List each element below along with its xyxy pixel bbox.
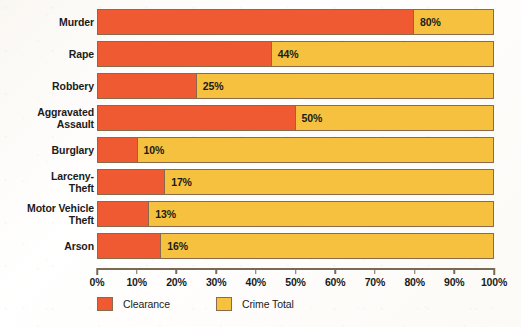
legend-swatch-icon [97, 297, 113, 311]
bar-crime-total: 80% [97, 9, 494, 35]
x-axis-tick [374, 268, 376, 274]
x-axis-tick-label: 100% [481, 276, 507, 288]
bar-value-label: 16% [167, 240, 188, 252]
chart-row: Larceny- Theft17% [0, 169, 521, 195]
bar-clearance [98, 202, 149, 226]
bar-value-label: 17% [171, 176, 192, 188]
x-axis-tick [334, 268, 336, 274]
category-label: Larceny- Theft [0, 170, 94, 194]
legend-label: Clearance [123, 298, 170, 310]
x-axis-tick-label: 80% [404, 276, 424, 288]
x-axis-tick [414, 268, 416, 274]
bar-clearance [98, 10, 414, 34]
category-label: Burglary [0, 144, 94, 156]
chart-row: Rape44% [0, 41, 521, 67]
legend-label: Crime Total [242, 298, 294, 310]
x-axis-tick [176, 268, 178, 274]
category-label: Murder [0, 16, 94, 28]
x-axis-tick [295, 268, 297, 274]
chart-row: Aggravated Assault50% [0, 105, 521, 131]
x-axis-tick [255, 268, 257, 274]
category-label: Rape [0, 48, 94, 60]
x-axis-tick [454, 268, 456, 274]
x-axis-tick [215, 268, 217, 274]
bar-value-label: 13% [155, 208, 176, 220]
category-label: Robbery [0, 80, 94, 92]
crime-clearance-bar-chart: Murder80%Rape44%Robbery25%Aggravated Ass… [0, 0, 521, 327]
x-axis-tick [136, 268, 138, 274]
x-axis-tick-label: 50% [285, 276, 305, 288]
x-axis-tick-label: 90% [444, 276, 464, 288]
bar-clearance [98, 170, 165, 194]
legend-item[interactable]: Crime Total [216, 297, 294, 311]
x-axis-tick-label: 20% [166, 276, 186, 288]
bar-clearance [98, 74, 197, 98]
legend-swatch-icon [216, 297, 232, 311]
bar-crime-total: 17% [97, 169, 494, 195]
x-axis-tick-label: 30% [206, 276, 226, 288]
bar-clearance [98, 138, 138, 162]
chart-row: Murder80% [0, 9, 521, 35]
bar-crime-total: 16% [97, 233, 494, 259]
x-axis-tick-label: 40% [246, 276, 266, 288]
bar-clearance [98, 42, 272, 66]
category-label: Arson [0, 240, 94, 252]
chart-row: Robbery25% [0, 73, 521, 99]
chart-legend: ClearanceCrime Total [97, 297, 294, 311]
bar-crime-total: 50% [97, 105, 494, 131]
chart-row: Motor Vehicle Theft13% [0, 201, 521, 227]
bar-crime-total: 44% [97, 41, 494, 67]
x-axis-tick [493, 268, 495, 275]
legend-item[interactable]: Clearance [97, 297, 170, 311]
x-axis-tick-label: 0% [90, 276, 105, 288]
x-axis-tick-label: 10% [126, 276, 146, 288]
chart-plot-area: Murder80%Rape44%Robbery25%Aggravated Ass… [0, 9, 521, 265]
bar-value-label: 80% [420, 16, 441, 28]
chart-row: Burglary10% [0, 137, 521, 163]
x-axis-tick [96, 268, 98, 275]
bar-clearance [98, 234, 161, 258]
category-label: Motor Vehicle Theft [0, 202, 94, 226]
bar-value-label: 10% [144, 144, 165, 156]
chart-row: Arson16% [0, 233, 521, 259]
bar-crime-total: 10% [97, 137, 494, 163]
bar-crime-total: 13% [97, 201, 494, 227]
category-label: Aggravated Assault [0, 106, 94, 130]
bar-value-label: 44% [278, 48, 299, 60]
bar-clearance [98, 106, 296, 130]
bar-crime-total: 25% [97, 73, 494, 99]
x-axis-tick-label: 60% [325, 276, 345, 288]
x-axis-tick-label: 70% [365, 276, 385, 288]
bar-value-label: 50% [302, 112, 323, 124]
bar-value-label: 25% [203, 80, 224, 92]
